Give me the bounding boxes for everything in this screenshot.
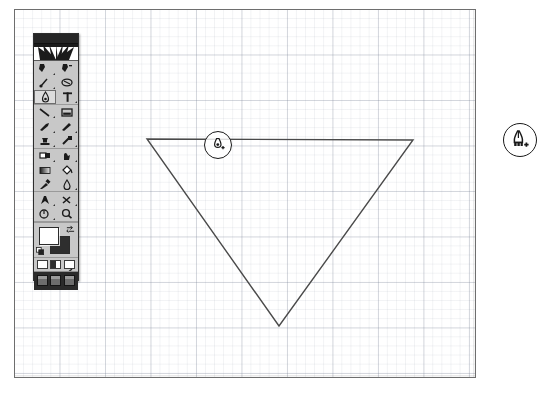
- standard-mode-button[interactable]: [37, 260, 48, 269]
- tool-eyedropper[interactable]: [34, 178, 56, 193]
- flyout-triangle-icon: [53, 131, 55, 133]
- color-swatches[interactable]: [34, 222, 78, 257]
- tool-magic-wand[interactable]: [56, 76, 78, 91]
- canvas-edge-shadow-right: [473, 10, 475, 377]
- tool-pen[interactable]: [34, 192, 56, 207]
- tool-line[interactable]: [34, 105, 56, 120]
- flyout-triangle-icon: [75, 160, 77, 162]
- screen-mode-group[interactable]: [34, 271, 78, 290]
- quick-mask-mode-button[interactable]: [50, 260, 61, 269]
- tool-crop[interactable]: [56, 105, 78, 120]
- flyout-triangle-icon: [53, 87, 55, 89]
- flyout-triangle-icon: [75, 204, 77, 206]
- tools-palette-titlebar[interactable]: [34, 34, 78, 44]
- tool-type[interactable]: [56, 90, 78, 105]
- tool-eraser[interactable]: [34, 149, 56, 164]
- full-screen-mode-button[interactable]: [64, 275, 75, 286]
- canvas-edge-shadow-bottom: [15, 375, 475, 377]
- swap-colors-icon[interactable]: [66, 225, 75, 234]
- foreground-color-swatch[interactable]: [39, 227, 59, 245]
- tool-blur[interactable]: [56, 178, 78, 193]
- tool-zoom[interactable]: [56, 207, 78, 222]
- full-screen-menu-mode-button[interactable]: [50, 275, 61, 286]
- tool-dodge-burn[interactable]: [56, 192, 78, 207]
- standard-screen-mode-button[interactable]: [37, 275, 48, 286]
- flyout-triangle-icon: [53, 218, 55, 220]
- tool-pencil[interactable]: [56, 119, 78, 134]
- flyout-triangle-icon: [53, 73, 55, 75]
- tool-paintbrush[interactable]: [34, 119, 56, 134]
- add-anchor-point-cursor-callout: [503, 123, 537, 157]
- tool-airbrush[interactable]: [34, 90, 56, 105]
- tool-rubber-stamp[interactable]: [34, 134, 56, 149]
- quick-mask-options-button[interactable]: [64, 260, 75, 269]
- flyout-triangle-icon: [75, 131, 77, 133]
- mask-mode-group[interactable]: [34, 257, 78, 271]
- tool-measure[interactable]: [34, 207, 56, 222]
- flyout-triangle-icon: [53, 116, 55, 118]
- tool-move[interactable]: [56, 61, 78, 76]
- tool-gradient[interactable]: [34, 163, 56, 178]
- tool-smudge[interactable]: [56, 149, 78, 164]
- tool-lasso[interactable]: [34, 76, 56, 91]
- flyout-triangle-icon: [53, 160, 55, 162]
- canvas-grid: [15, 10, 475, 377]
- flyout-triangle-icon: [75, 188, 77, 190]
- photoshop-logo: [34, 44, 78, 61]
- add-anchor-point-cursor: [204, 131, 232, 159]
- document-canvas[interactable]: [14, 9, 476, 378]
- tools-grid[interactable]: [34, 61, 78, 222]
- flyout-triangle-icon: [53, 204, 55, 206]
- default-colors-icon[interactable]: [36, 247, 44, 255]
- photoshop-window: [0, 0, 559, 406]
- flyout-triangle-icon: [75, 101, 77, 103]
- tools-palette[interactable]: [33, 33, 79, 281]
- tool-paint-bucket[interactable]: [56, 163, 78, 178]
- flyout-triangle-icon: [75, 145, 77, 147]
- tool-history-brush[interactable]: [56, 134, 78, 149]
- flyout-triangle-icon: [53, 145, 55, 147]
- tool-marquee[interactable]: [34, 61, 56, 76]
